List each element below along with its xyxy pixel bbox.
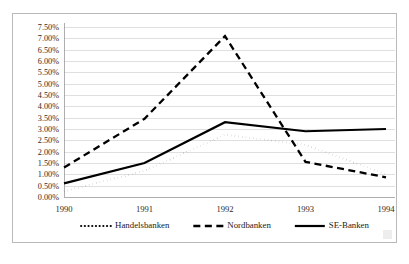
x-tick-label: 1994 bbox=[377, 204, 395, 214]
y-tick-label: 6.00% bbox=[38, 57, 59, 66]
series-line-handelsbanken bbox=[64, 135, 386, 192]
line-chart: 0.00%0.50%1.00%1.50%2.00%2.50%3.00%3.50%… bbox=[13, 14, 398, 244]
series-group bbox=[64, 36, 386, 191]
y-tick-label: 3.50% bbox=[38, 114, 59, 123]
legend-label-nordbanken: Nordbanken bbox=[227, 220, 271, 230]
x-tick-label: 1993 bbox=[297, 204, 314, 214]
y-tick-label: 5.00% bbox=[38, 80, 59, 89]
y-tick-label: 7.50% bbox=[38, 23, 59, 32]
y-tick-label: 2.50% bbox=[38, 136, 59, 145]
y-tick-label: 7.00% bbox=[38, 34, 59, 43]
legend-label-handelsbanken: Handelsbanken bbox=[115, 220, 170, 230]
y-tick-label: 1.50% bbox=[38, 159, 59, 168]
y-tick-label: 1.00% bbox=[38, 170, 59, 179]
x-axis-tick-labels: 19901991199219931994 bbox=[55, 204, 395, 214]
y-tick-label: 6.50% bbox=[38, 46, 59, 55]
y-tick-label: 4.50% bbox=[38, 91, 59, 100]
corner-artifact bbox=[383, 230, 392, 239]
y-tick-label: 4.00% bbox=[38, 102, 59, 111]
x-tick-label: 1991 bbox=[136, 204, 153, 214]
y-axis-tick-labels: 0.00%0.50%1.00%1.50%2.00%2.50%3.00%3.50%… bbox=[38, 23, 59, 202]
y-tick-label: 2.00% bbox=[38, 148, 59, 157]
x-tick-label: 1992 bbox=[216, 204, 233, 214]
y-tick-label: 3.00% bbox=[38, 125, 59, 134]
series-line-se-banken bbox=[64, 122, 386, 183]
x-tick-label: 1990 bbox=[55, 204, 72, 214]
y-tick-label: 0.00% bbox=[38, 193, 59, 202]
legend-label-se-banken: SE-Banken bbox=[329, 220, 370, 230]
y-tick-label: 0.50% bbox=[38, 182, 59, 191]
y-tick-label: 5.50% bbox=[38, 68, 59, 77]
chart-frame: 0.00%0.50%1.00%1.50%2.00%2.50%3.00%3.50%… bbox=[12, 13, 397, 243]
chart-legend: HandelsbankenNordbankenSE-Banken bbox=[81, 220, 369, 230]
